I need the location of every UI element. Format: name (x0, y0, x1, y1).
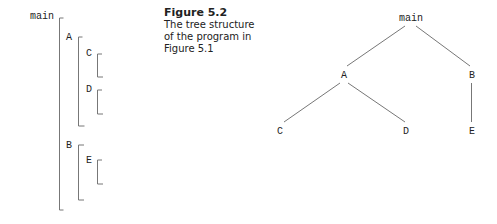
edge-a-d (348, 83, 405, 122)
main-bracket (60, 18, 64, 210)
edge-main-a (347, 26, 405, 66)
tree-node-main: main (399, 13, 423, 24)
bracket-label-b: B (66, 140, 72, 151)
tree-node-b: B (469, 70, 475, 81)
caption-line-2: of the program in (164, 31, 254, 43)
edge-main-b (416, 26, 470, 66)
tree-node-e: E (469, 126, 475, 137)
c-bracket (98, 54, 104, 77)
tree-node-d: D (403, 126, 409, 137)
b-bracket (79, 145, 85, 200)
bracket-label-c: C (86, 48, 92, 59)
a-bracket (79, 37, 85, 126)
bracket-label-e: E (86, 155, 92, 166)
caption-line-1: The tree structure (164, 19, 254, 31)
d-bracket (98, 90, 104, 114)
figure-caption: Figure 5.2 The tree structure of the pro… (164, 7, 254, 55)
tree-node-a: A (341, 70, 347, 81)
caption-line-3: Figure 5.1 (164, 43, 254, 55)
figure-title: Figure 5.2 (164, 7, 254, 19)
tree-node-c: C (277, 126, 283, 137)
bracket-label-main: main (30, 11, 54, 22)
bracket-label-d: D (86, 84, 92, 95)
bracket-label-a: A (66, 32, 72, 43)
e-bracket (98, 160, 104, 184)
edge-a-c (284, 83, 340, 122)
